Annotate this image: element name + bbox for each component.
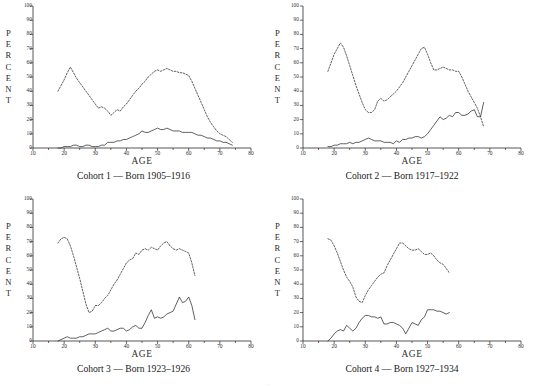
panel-caption: Cohort 3 — Born 1923–1926 (0, 363, 267, 374)
chart-panel-cohort-2: PERCENT 0102030405060708090100 102030405… (267, 0, 537, 193)
line-chart-svg (303, 6, 521, 148)
chart-panel-cohort-3: PERCENT 0102030405060708090100 102030405… (0, 193, 267, 386)
series-line-lower-solid (58, 297, 195, 341)
y-tick-label: 30 (294, 296, 299, 301)
y-axis-tick-labels: 0102030405060708090100 (12, 6, 32, 148)
line-chart-svg (33, 199, 251, 341)
cropped-figure-caption: . (0, 378, 537, 386)
plot-area (303, 6, 521, 148)
y-tick-label: 90 (294, 211, 299, 216)
y-axis-tick-labels: 0102030405060708090100 (279, 199, 299, 341)
y-tick-label: 0 (296, 145, 299, 150)
chart-axes (303, 199, 521, 341)
panel-caption: Cohort 2 — Born 1917–1922 (273, 170, 531, 181)
y-tick-label: 20 (294, 117, 299, 122)
y-tick-label: 60 (294, 60, 299, 65)
x-axis-title-age: AGE (33, 156, 251, 166)
y-tick-label: 10 (294, 131, 299, 136)
series-line-upper-dashed (58, 237, 195, 312)
y-axis-tick-labels: 0102030405060708090100 (12, 199, 32, 341)
panel-caption: Cohort 1 — Born 1905–1916 (0, 170, 267, 181)
y-tick-label: 90 (294, 18, 299, 23)
y-axis-tick-labels: 0102030405060708090100 (279, 6, 299, 148)
y-tick-label: 50 (294, 74, 299, 79)
y-tick-label: 60 (294, 253, 299, 258)
plot-area (303, 199, 521, 341)
y-tick-label: 10 (294, 324, 299, 329)
chart-panel-cohort-4: PERCENT 0102030405060708090100 102030405… (267, 193, 537, 386)
y-tick-label: 70 (294, 239, 299, 244)
series-line-lower-solid (328, 310, 449, 341)
y-tick-label: 100 (291, 3, 299, 8)
series-line-lower-solid (328, 103, 484, 147)
series-line-lower-solid (58, 128, 232, 148)
plot-area (33, 199, 251, 341)
x-axis-title-age: AGE (303, 349, 521, 359)
series-line-upper-dashed (328, 239, 449, 303)
figure-panel-grid: PERCENT 0102030405060708090100 102030405… (0, 0, 537, 386)
x-axis-title-age: AGE (33, 349, 251, 359)
y-tick-label: 30 (294, 103, 299, 108)
y-tick-label: 80 (294, 32, 299, 37)
x-axis-title-age: AGE (303, 156, 521, 166)
y-tick-label: 40 (294, 282, 299, 287)
y-tick-label: 50 (294, 267, 299, 272)
chart-axes (303, 6, 521, 148)
y-tick-label: 70 (294, 46, 299, 51)
line-chart-svg (303, 199, 521, 341)
chart-axes (33, 199, 251, 341)
panel-caption: Cohort 4 — Born 1927–1934 (273, 363, 531, 374)
series-line-upper-dashed (58, 67, 232, 142)
y-tick-label: 80 (294, 225, 299, 230)
y-tick-label: 100 (291, 196, 299, 201)
y-tick-label: 0 (296, 338, 299, 343)
plot-area (33, 6, 251, 148)
line-chart-svg (33, 6, 251, 148)
y-tick-label: 20 (294, 310, 299, 315)
chart-panel-cohort-1: PERCENT 0102030405060708090100 102030405… (0, 0, 267, 193)
y-tick-label: 40 (294, 89, 299, 94)
